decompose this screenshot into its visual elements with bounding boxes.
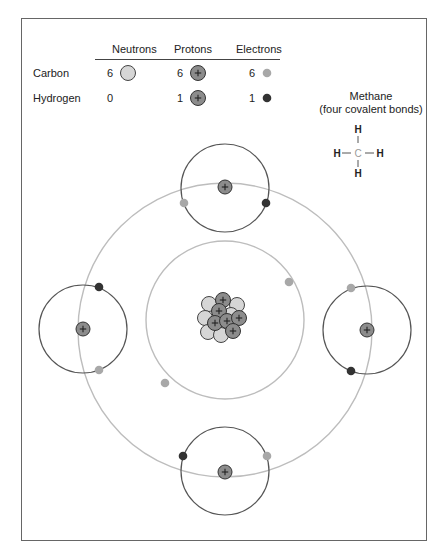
- svg-text:H: H: [333, 148, 340, 159]
- carbon-shared-electron: [347, 284, 356, 293]
- atom-diagram: H H C H H: [0, 0, 443, 546]
- hydrogen-atom-left: [39, 285, 127, 373]
- svg-text:H: H: [354, 168, 361, 179]
- carbon-nucleus: [198, 293, 247, 343]
- carbon-inner-electron: [161, 379, 170, 388]
- carbon-shared-electron: [180, 199, 189, 208]
- hydrogen-shared-electron: [95, 283, 104, 292]
- hydrogen-atom-bottom: [181, 427, 269, 515]
- hydrogen-shared-electron: [179, 452, 188, 461]
- methane-structural-formula: H H C H H: [333, 124, 383, 179]
- svg-text:H: H: [354, 124, 361, 135]
- hydrogen-atom-top: [181, 144, 269, 232]
- carbon-shared-electron: [263, 452, 272, 461]
- carbon-electron-legend-icon: [263, 69, 272, 78]
- hydrogen-shared-electron: [262, 199, 271, 208]
- hydrogen-shared-electron: [347, 367, 356, 376]
- hydrogen-electron-legend-icon: [263, 94, 272, 103]
- carbon-inner-electron: [285, 278, 294, 287]
- svg-text:C: C: [354, 148, 361, 159]
- carbon-shared-electron: [95, 366, 104, 375]
- hydrogen-atom-right: [323, 286, 411, 374]
- svg-text:H: H: [376, 148, 383, 159]
- proton-legend-icon-hydrogen: [191, 91, 206, 106]
- neutron-legend-icon: [121, 66, 136, 81]
- proton-legend-icon: [191, 66, 206, 81]
